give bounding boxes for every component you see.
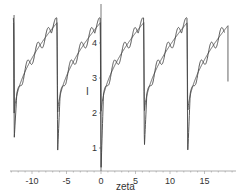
series-oscillating-line xyxy=(13,18,224,168)
y-tick-label: 4 xyxy=(92,38,97,48)
y-tick-label: 3 xyxy=(92,73,97,83)
x-axis-label: zeta xyxy=(116,181,135,192)
series-group xyxy=(13,15,228,167)
x-tick-label: 10 xyxy=(165,176,175,186)
x-tick-label: 15 xyxy=(199,176,209,186)
x-tick-label: -10 xyxy=(25,176,38,186)
y-tick-label: 1 xyxy=(92,143,97,153)
y-axis-label: I xyxy=(86,86,89,97)
y-tick-label: 2 xyxy=(92,108,97,118)
x-tick-label: 0 xyxy=(98,176,103,186)
x-tick-label: -5 xyxy=(62,176,70,186)
y-ticks: 1234 xyxy=(92,38,101,153)
chart: -10-5051015 1234 zeta I xyxy=(0,0,242,196)
